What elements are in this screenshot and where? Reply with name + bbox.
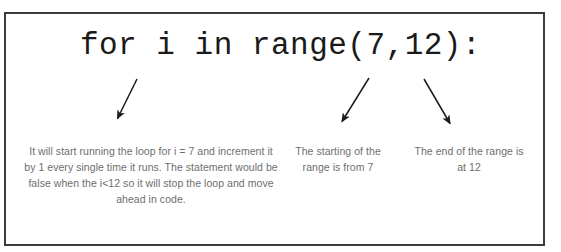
annotation-range-start-explanation: The starting of the range is from 7 (282, 143, 394, 175)
python-code-statement: for i in range(7,12): (0, 26, 561, 66)
slide-canvas: for i in range(7,12): It will start runn… (0, 0, 561, 252)
annotation-range-end-explanation: The end of the range is at 12 (414, 143, 524, 175)
annotation-loop-body-explanation: It will start running the loop for i = 7… (24, 143, 278, 207)
